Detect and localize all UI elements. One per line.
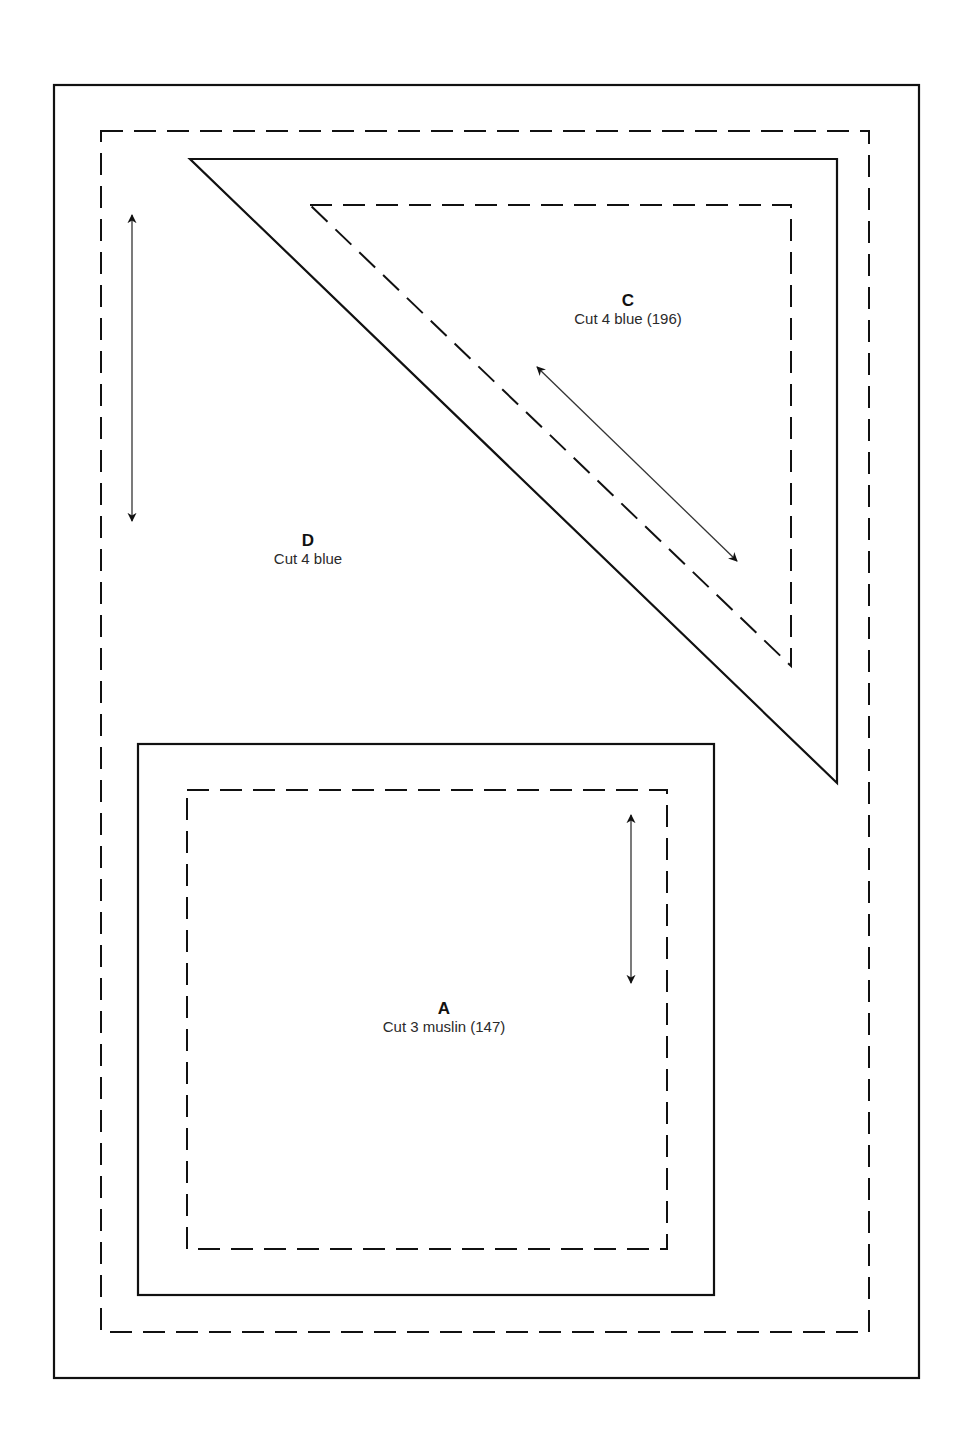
piece-c-letter: C: [574, 292, 682, 309]
piece-a-letter: A: [383, 1000, 506, 1017]
piece-d-label: D Cut 4 blue: [274, 532, 342, 566]
piece-c-label: C Cut 4 blue (196): [574, 292, 682, 326]
piece-d-description: Cut 4 blue: [274, 551, 342, 566]
piece-c-description: Cut 4 blue (196): [574, 311, 682, 326]
piece-d-letter: D: [274, 532, 342, 549]
template-diagram: [0, 0, 971, 1449]
piece-d-seam-line: [101, 131, 869, 1332]
piece-c-seam-line: [310, 205, 791, 666]
piece-c-cut-line: [190, 159, 837, 783]
piece-a-description: Cut 3 muslin (147): [383, 1019, 506, 1034]
piece-d-cut-line: [54, 85, 919, 1378]
piece-a-label: A Cut 3 muslin (147): [383, 1000, 506, 1034]
piece-c-grain-arrow-icon: [537, 367, 737, 561]
